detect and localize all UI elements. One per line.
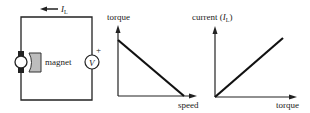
magnet-icon bbox=[29, 53, 41, 72]
y-axis-label: torque bbox=[107, 12, 130, 22]
current-torque-chart: current (IL) torque bbox=[192, 12, 299, 110]
torque-speed-chart: torque speed bbox=[107, 12, 199, 110]
x-axis-label: torque bbox=[276, 100, 299, 110]
magnet-label: magnet bbox=[45, 57, 72, 67]
polarity-label: + bbox=[96, 45, 101, 55]
motor-icon bbox=[15, 51, 27, 73]
x-axis-label: speed bbox=[178, 100, 199, 110]
motor-diagram: IL magnet V + torque speed current (IL) … bbox=[0, 0, 310, 113]
current-label: IL bbox=[60, 4, 68, 15]
current-arrow-icon bbox=[40, 7, 58, 12]
y-axis-label: current (IL) bbox=[192, 12, 232, 23]
